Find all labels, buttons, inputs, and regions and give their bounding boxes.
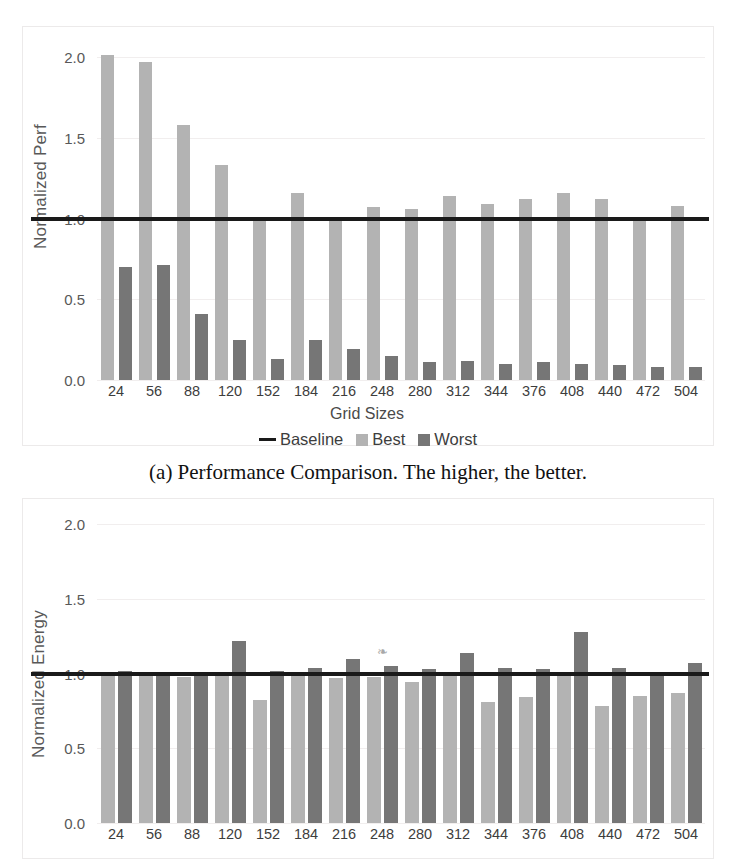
bar-worst [498, 668, 512, 823]
square-swatch-worst-icon [418, 434, 430, 446]
x-tick-label: 88 [184, 383, 200, 399]
bar-worst [537, 362, 550, 380]
bar-best [633, 696, 647, 823]
x-tick-label: 120 [218, 826, 242, 842]
bar-worst [156, 674, 170, 824]
x-tick-label: 88 [184, 826, 200, 842]
x-tick-label: 312 [446, 383, 470, 399]
bar-best [595, 199, 608, 380]
x-tick-label: 472 [636, 826, 660, 842]
bar-worst [270, 671, 284, 823]
bar-best [671, 206, 684, 380]
x-tick-label: 376 [522, 383, 546, 399]
bar-best [139, 675, 153, 823]
bar-worst [347, 349, 360, 380]
x-tick-label: 312 [446, 826, 470, 842]
gridline [97, 380, 705, 381]
bar-worst [422, 669, 436, 823]
legend-item-best: Best [356, 430, 405, 449]
bar-worst [612, 668, 626, 823]
bar-best [595, 706, 609, 823]
x-tick-label: 24 [108, 826, 124, 842]
bar-best [481, 702, 495, 823]
bar-worst [271, 359, 284, 380]
bar-best [633, 219, 646, 381]
bar-worst [194, 672, 208, 823]
x-tick-label: 248 [370, 383, 394, 399]
x-tick-label: 504 [674, 826, 698, 842]
bar-worst [460, 653, 474, 823]
bar-best [443, 196, 456, 380]
bar-worst [499, 364, 512, 380]
x-tick-label: 152 [256, 826, 280, 842]
bar-best [405, 209, 418, 380]
legend-label-best: Best [372, 430, 405, 449]
bar-best [405, 682, 419, 823]
energy-baseline-line [31, 672, 709, 676]
x-tick-label: 440 [598, 826, 622, 842]
legend-item-baseline: Baseline [259, 430, 343, 449]
performance-x-axis-title: Grid Sizes [63, 405, 671, 423]
bar-worst [119, 267, 132, 380]
bar-best [253, 219, 266, 381]
bar-best [557, 675, 571, 823]
performance-legend: Baseline Best Worst [23, 430, 713, 449]
x-tick-label: 56 [146, 826, 162, 842]
legend-label-baseline: Baseline [280, 430, 343, 449]
bar-best [139, 62, 152, 380]
performance-baseline-line [31, 217, 709, 221]
bar-worst [195, 314, 208, 380]
x-tick-label: 24 [108, 383, 124, 399]
x-tick-label: 408 [560, 826, 584, 842]
x-tick-label: 408 [560, 383, 584, 399]
bar-best [519, 697, 533, 823]
energy-chart-frame: Normalized Energy 0.00.51.01.52.0 ❧ 2456… [22, 498, 714, 859]
y-tick-label: 2.0 [23, 516, 85, 533]
y-tick-label: 0.0 [23, 815, 85, 832]
bar-worst [575, 364, 588, 380]
legend-item-worst: Worst [418, 430, 477, 449]
x-tick-label: 184 [294, 383, 318, 399]
gridline [97, 823, 705, 824]
y-tick-label: 2.0 [23, 49, 85, 66]
x-tick-label: 472 [636, 383, 660, 399]
bar-worst [233, 340, 246, 380]
bar-best [291, 193, 304, 380]
y-tick-label: 1.5 [23, 590, 85, 607]
x-tick-label: 216 [332, 383, 356, 399]
y-tick-label: 1.5 [23, 129, 85, 146]
bar-worst [688, 663, 702, 823]
bar-best [329, 678, 343, 823]
bar-worst [651, 367, 664, 380]
bar-worst [118, 671, 132, 823]
bar-worst [308, 668, 322, 823]
bar-best [671, 693, 685, 823]
legend-label-worst: Worst [434, 430, 477, 449]
bar-worst [384, 666, 398, 823]
performance-plot-area [97, 57, 705, 380]
bar-worst [309, 340, 322, 380]
x-tick-label: 344 [484, 826, 508, 842]
bar-worst [232, 641, 246, 823]
x-tick-label: 280 [408, 826, 432, 842]
bar-best [101, 674, 115, 824]
bar-best [215, 165, 228, 380]
bar-best [177, 125, 190, 380]
bar-best [557, 193, 570, 380]
figure-page: Normalized Perf 0.00.51.01.52.0 24568812… [0, 0, 736, 859]
bar-best [443, 675, 457, 823]
performance-chart-frame: Normalized Perf 0.00.51.01.52.0 24568812… [22, 26, 714, 446]
bar-best [367, 677, 381, 824]
x-tick-label: 56 [146, 383, 162, 399]
bar-worst [461, 361, 474, 380]
bar-worst [574, 632, 588, 823]
bar-worst [650, 674, 664, 824]
scan-artifact-smudge: ❧ [377, 644, 388, 659]
bar-worst [536, 669, 550, 823]
x-tick-label: 120 [218, 383, 242, 399]
bar-worst [613, 365, 626, 380]
y-tick-label: 0.5 [23, 291, 85, 308]
performance-y-axis-title: Normalized Perf [31, 52, 51, 322]
bar-best [291, 675, 305, 823]
x-tick-label: 216 [332, 826, 356, 842]
